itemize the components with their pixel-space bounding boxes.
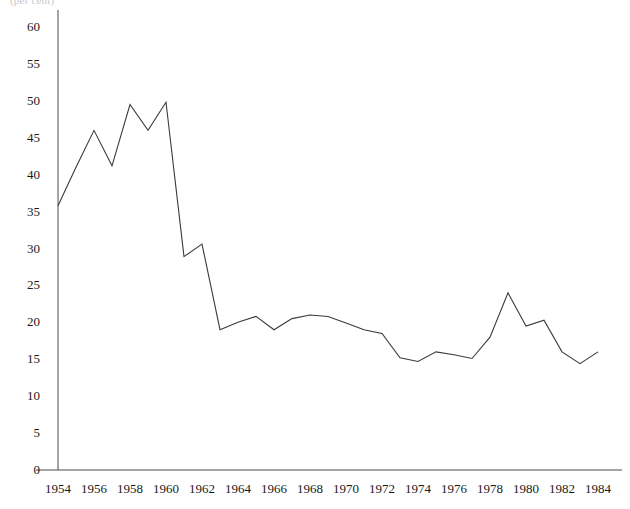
y-tick-label: 30 <box>6 242 40 255</box>
y-tick-label: 50 <box>6 94 40 107</box>
y-tick-label: 45 <box>6 131 40 144</box>
y-tick-label: 15 <box>6 352 40 365</box>
y-tick-label: 55 <box>6 57 40 70</box>
y-tick-label: 0 <box>6 463 40 476</box>
y-tick-label: 60 <box>6 20 40 33</box>
x-tick-label: 1984 <box>576 482 620 495</box>
y-tick-label: 5 <box>6 426 40 439</box>
line-chart-plot <box>0 0 630 509</box>
chart-container: (per cent) 051015202530354045505560 1954… <box>0 0 630 509</box>
y-tick-label: 40 <box>6 168 40 181</box>
y-tick-label: 10 <box>6 389 40 402</box>
y-tick-label: 35 <box>6 205 40 218</box>
y-tick-label: 20 <box>6 315 40 328</box>
axes-group <box>36 10 622 470</box>
y-tick-label: 25 <box>6 278 40 291</box>
data-series-line <box>58 102 598 363</box>
